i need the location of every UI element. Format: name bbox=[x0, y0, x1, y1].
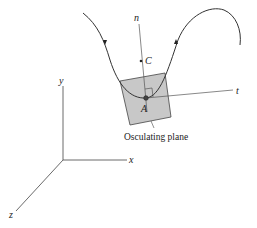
caption-leader bbox=[151, 121, 154, 128]
label-t: t bbox=[236, 85, 239, 96]
axis-z bbox=[16, 160, 63, 211]
osculating-plane-figure: n C t A Osculating plane y x z bbox=[0, 0, 257, 228]
label-axis-z: z bbox=[8, 209, 13, 220]
label-n: n bbox=[134, 12, 139, 23]
label-osculating-plane: Osculating plane bbox=[124, 132, 188, 142]
label-axis-x: x bbox=[128, 154, 134, 165]
label-a: A bbox=[140, 103, 148, 114]
point-c bbox=[140, 60, 143, 63]
point-a bbox=[144, 96, 149, 101]
label-axis-y: y bbox=[58, 75, 64, 86]
label-c: C bbox=[145, 55, 152, 66]
